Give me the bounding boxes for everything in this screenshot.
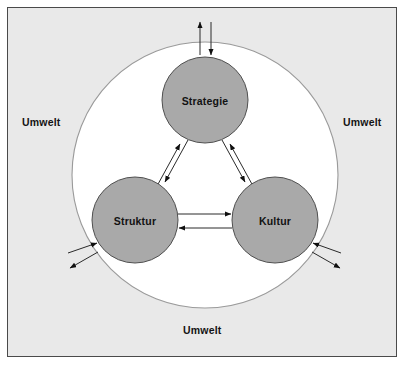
boundary-arrow-bottom-right-outward [312, 252, 340, 268]
node-label-kultur: Kultur [259, 215, 291, 227]
boundary-arrow-bottom-left-outward [70, 252, 98, 268]
figure-container: Strategie Struktur Kultur Umwelt Umwelt … [0, 0, 406, 366]
environment-label-right: Umwelt [343, 116, 382, 128]
boundary-arrow-bottom-right-inward [313, 243, 341, 253]
node-label-struktur: Struktur [114, 215, 156, 227]
boundary-arrow-bottom-left-inward [68, 243, 97, 253]
node-label-strategie: Strategie [182, 95, 229, 107]
environment-label-bottom: Umwelt [183, 324, 222, 336]
environment-label-left: Umwelt [22, 116, 61, 128]
diagram-canvas [0, 0, 406, 366]
